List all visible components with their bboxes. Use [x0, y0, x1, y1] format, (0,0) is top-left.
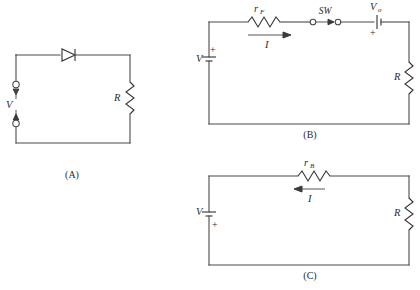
panel-c-caption: (C): [303, 270, 316, 282]
panel-a-resistor-label: R: [113, 92, 121, 103]
switch-terminal-left[interactable]: [310, 19, 316, 25]
panel-b-offset-source-sub: o: [378, 6, 382, 14]
panel-b-current-label: I: [264, 39, 269, 50]
source-arrow-bottom: [13, 114, 19, 120]
battery-v-b-icon: [202, 57, 216, 61]
panel-c-series-resistor-label: r: [304, 157, 309, 168]
panel-b-source-polarity: +: [210, 44, 216, 55]
panel-b-series-resistor-sub: F: [259, 8, 265, 16]
panel-c-source-polarity: +: [212, 219, 218, 230]
resistor-rb-icon: [298, 171, 330, 181]
circuit-figure: V R (A) SW: [0, 0, 420, 290]
panel-b-offset-polarity: +: [370, 27, 376, 38]
diode-icon: [62, 49, 75, 61]
resistor-rf-icon: [248, 17, 280, 27]
panel-a-caption: (A): [65, 169, 79, 181]
panel-b-caption: (B): [303, 129, 316, 141]
resistor-r-b-icon: [405, 62, 413, 94]
resistor-r-a-icon: [126, 82, 134, 114]
panel-b-source-label: V: [196, 53, 204, 64]
battery-vo-icon: [377, 15, 381, 29]
panel-c: r B I R V + (C): [196, 157, 413, 282]
battery-v-c-icon: [202, 212, 216, 216]
panel-b-current-arrowhead: [283, 32, 291, 38]
switch-arrow-icon: [328, 19, 334, 25]
resistor-r-c-icon: [405, 198, 413, 230]
panel-c-current-label: I: [307, 193, 312, 204]
terminal-circle-bottom: [13, 120, 19, 126]
panel-b-load-resistor-label: R: [393, 71, 401, 82]
panel-b-offset-source-label: V: [370, 1, 378, 12]
panel-b-series-resistor-label: r: [254, 3, 259, 14]
panel-c-series-resistor-sub: B: [310, 162, 315, 170]
panel-a: V R (A): [6, 49, 134, 181]
panel-a-source-label: V: [6, 99, 14, 110]
terminal-circle-top: [13, 81, 19, 87]
panel-c-current-arrowhead: [294, 186, 302, 192]
switch-label: SW: [319, 6, 333, 16]
panel-b: SW V o + r F I R: [196, 1, 413, 141]
panel-c-load-resistor-label: R: [393, 207, 401, 218]
switch-terminal-right[interactable]: [335, 19, 341, 25]
